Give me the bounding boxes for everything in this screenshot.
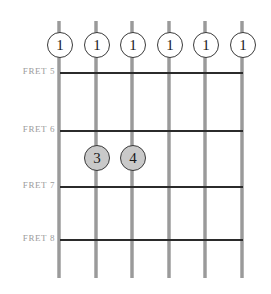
fret-label-6: FRET 6 [13, 124, 55, 134]
fret-line-6 [60, 130, 243, 132]
fret-label-5: FRET 5 [13, 66, 55, 76]
finger-dot-1-string-6[interactable]: 1 [230, 32, 256, 58]
finger-dot-label: 1 [56, 37, 64, 52]
finger-dot-4-string-3[interactable]: 4 [120, 145, 146, 171]
finger-dot-label: 4 [129, 150, 137, 165]
finger-dot-3-string-2[interactable]: 3 [84, 145, 110, 171]
fret-line-8 [60, 239, 243, 241]
fret-label-7: FRET 7 [13, 180, 55, 190]
finger-dot-1-string-5[interactable]: 1 [193, 32, 219, 58]
finger-dot-label: 1 [202, 37, 210, 52]
finger-dot-1-string-2[interactable]: 1 [84, 32, 110, 58]
fret-label-8: FRET 8 [13, 233, 55, 243]
finger-dot-1-string-4[interactable]: 1 [157, 32, 183, 58]
finger-dot-label: 3 [93, 150, 101, 165]
fret-line-5 [60, 72, 243, 74]
fret-line-7 [60, 186, 243, 188]
fretboard-diagram: FRET 5FRET 6FRET 7FRET 8 11111134 [0, 0, 271, 294]
finger-dot-label: 1 [129, 37, 137, 52]
finger-dot-1-string-1[interactable]: 1 [47, 32, 73, 58]
finger-dot-label: 1 [166, 37, 174, 52]
finger-dot-label: 1 [239, 37, 247, 52]
finger-dot-label: 1 [93, 37, 101, 52]
finger-dot-1-string-3[interactable]: 1 [120, 32, 146, 58]
